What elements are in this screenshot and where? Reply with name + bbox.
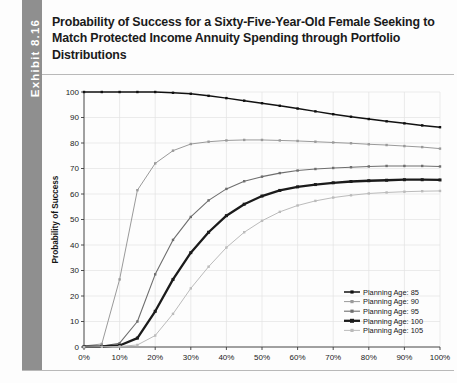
data-point: [279, 105, 281, 107]
data-point: [279, 139, 281, 141]
data-point: [118, 345, 120, 347]
data-point: [279, 211, 281, 213]
data-point: [190, 143, 192, 145]
data-point: [207, 231, 210, 234]
data-point: [261, 220, 263, 222]
title-divider: [42, 74, 454, 75]
data-point: [83, 91, 85, 93]
data-point: [101, 346, 103, 348]
title-block: Probability of Success for a Sixty-Five-…: [52, 14, 442, 63]
y-tick-label: 50: [70, 215, 79, 224]
legend-label: Planning Age: 85: [363, 288, 419, 297]
data-point: [314, 110, 316, 112]
data-point: [243, 203, 246, 206]
data-point: [243, 99, 245, 101]
legend-label: Planning Age: 95: [363, 307, 419, 316]
data-point: [225, 97, 227, 99]
legend-swatch-marker: [350, 290, 353, 293]
x-tick-label: 0%: [78, 353, 90, 362]
data-point: [225, 246, 227, 248]
data-point: [296, 140, 298, 142]
data-point: [225, 188, 227, 190]
legend-swatch-marker: [350, 310, 353, 313]
data-point: [296, 169, 298, 171]
line-chart: 01020304050607080901000%10%20%30%40%50%6…: [44, 80, 454, 365]
data-point: [421, 165, 423, 167]
x-tick-label: 40%: [218, 353, 234, 362]
data-point: [278, 189, 281, 192]
data-point: [385, 191, 387, 193]
y-tick-label: 60: [70, 190, 79, 199]
legend-item-1: Planning Age: 90: [344, 297, 419, 306]
data-point: [332, 113, 334, 115]
data-point: [207, 95, 209, 97]
data-point: [350, 180, 353, 183]
y-tick-label: 100: [66, 88, 80, 97]
data-point: [190, 216, 192, 218]
data-point: [136, 320, 138, 322]
data-point: [314, 168, 316, 170]
data-point: [243, 231, 245, 233]
data-point: [172, 313, 174, 315]
data-point: [439, 178, 442, 181]
data-point: [350, 166, 352, 168]
data-point: [368, 192, 370, 194]
data-point: [261, 175, 263, 177]
exhibit-page: Exhibit 8.16 Probability of Success for …: [0, 0, 457, 383]
data-point: [403, 122, 405, 124]
data-point: [279, 172, 281, 174]
data-point: [439, 165, 441, 167]
data-point: [261, 195, 264, 198]
x-tick-label: 100%: [430, 353, 450, 362]
data-point: [243, 180, 245, 182]
y-axis-title: Probability of Success: [51, 175, 60, 263]
legend-swatch-marker: [350, 319, 354, 323]
data-point: [368, 118, 370, 120]
legend-swatch-marker: [350, 300, 353, 303]
data-point: [403, 178, 406, 181]
data-point: [385, 144, 387, 146]
data-point: [296, 185, 299, 188]
data-point: [368, 165, 370, 167]
data-point: [118, 91, 120, 93]
x-tick-label: 90%: [396, 353, 412, 362]
data-point: [154, 273, 156, 275]
chart-container: 01020304050607080901000%10%20%30%40%50%6…: [44, 80, 454, 365]
data-point: [350, 194, 352, 196]
y-tick-label: 10: [70, 317, 79, 326]
data-point: [403, 165, 405, 167]
data-point: [118, 278, 120, 280]
data-point: [154, 334, 156, 336]
data-point: [439, 190, 441, 192]
y-tick-label: 40: [70, 241, 79, 250]
data-point: [101, 91, 103, 93]
data-point: [154, 310, 157, 313]
data-point: [136, 337, 139, 340]
data-point: [172, 239, 174, 241]
data-point: [439, 147, 441, 149]
data-point: [172, 278, 175, 281]
page-title: Probability of Success for a Sixty-Five-…: [52, 14, 442, 63]
data-point: [136, 189, 138, 191]
y-tick-label: 80: [70, 139, 79, 148]
data-point: [314, 200, 316, 202]
exhibit-tab-label: Exhibit 8.16: [29, 0, 41, 133]
data-point: [136, 344, 138, 346]
x-tick-label: 60%: [290, 353, 306, 362]
data-point: [243, 139, 245, 141]
legend-label: Planning Age: 105: [363, 326, 423, 335]
y-tick-label: 30: [70, 266, 79, 275]
data-point: [154, 162, 156, 164]
data-point: [350, 142, 352, 144]
legend-item-2: Planning Age: 95: [344, 307, 419, 316]
data-point: [403, 145, 405, 147]
legend-label: Planning Age: 90: [363, 297, 419, 306]
data-point: [332, 141, 334, 143]
data-point: [314, 183, 317, 186]
data-point: [225, 214, 228, 217]
y-tick-label: 20: [70, 292, 79, 301]
data-point: [207, 265, 209, 267]
data-point: [83, 346, 85, 348]
data-point: [385, 179, 388, 182]
data-point: [296, 107, 298, 109]
